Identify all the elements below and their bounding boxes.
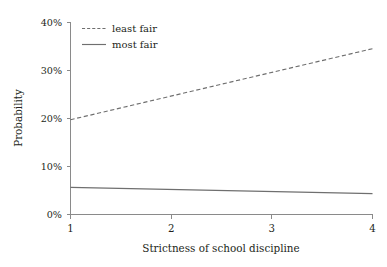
x-tick-label-1: 1 xyxy=(67,223,73,234)
y-tick-label-10: 10% xyxy=(41,161,62,172)
y-tick-label-30: 30% xyxy=(41,65,62,76)
y-tick-label-0: 0% xyxy=(47,209,62,220)
y-axis-ticks xyxy=(67,22,71,214)
series-line-most-fair xyxy=(71,187,373,193)
chart-legend: least fair most fair xyxy=(82,23,158,50)
line-chart-canvas: 40% 30% 20% 10% 0% 1 2 3 4 least fair mo… xyxy=(0,0,387,267)
series-line-least-fair xyxy=(71,49,373,120)
y-tick-label-40: 40% xyxy=(41,17,62,28)
x-tick-label-3: 3 xyxy=(269,223,275,234)
y-tick-label-20: 20% xyxy=(41,113,62,124)
y-axis-title: Probability xyxy=(12,89,24,147)
x-tick-label-4: 4 xyxy=(369,223,375,234)
chart-figure: 40% 30% 20% 10% 0% 1 2 3 4 least fair mo… xyxy=(0,0,387,267)
x-axis-title: Strictness of school discipline xyxy=(142,242,299,254)
legend-label-least-fair: least fair xyxy=(112,23,157,34)
x-axis-ticks xyxy=(71,215,373,220)
x-tick-label-2: 2 xyxy=(168,223,174,234)
legend-label-most-fair: most fair xyxy=(112,39,158,50)
